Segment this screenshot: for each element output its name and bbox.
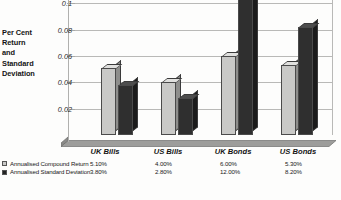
y-axis-title-line: Return [2, 38, 48, 48]
x-axis-label-uk-bonds: UK Bonds [215, 147, 252, 156]
bar-group-us-bonds [281, 0, 325, 135]
legend-swatch-icon [2, 170, 7, 175]
bar-uk-bonds-return [221, 56, 236, 135]
bar-uk-bills-return [101, 68, 116, 135]
bar-group-uk-bonds [221, 0, 265, 135]
legend-label: Annualised Standard Deviation [10, 168, 90, 175]
y-axis-title-line: Standard [2, 59, 48, 69]
y-axis-line [68, 0, 69, 142]
y-tick-label: 0.1 [62, 0, 72, 8]
bar-group-us-bills [161, 0, 205, 135]
chart-legend: Annualised Compound Return 5.10% 4.00% 6… [2, 160, 339, 176]
bar-uk-bonds-stddev [238, 0, 253, 135]
bar-group-uk-bills [101, 0, 145, 135]
plot-inner: 0.1 0.08 0.06 0.04 0.02 [75, 0, 333, 135]
bar-us-bills-stddev [178, 98, 193, 135]
x-axis-label-us-bonds: US Bonds [280, 147, 316, 156]
y-axis-title-line: Deviation [2, 69, 48, 79]
bar-us-bills-return [161, 82, 176, 135]
y-tick-label: 0.08 [58, 25, 72, 34]
legend-label: Annualised Compound Return [10, 160, 89, 167]
legend-value-us-bills: 4.00% [155, 160, 172, 167]
legend-value-uk-bonds: 12.00% [220, 168, 240, 175]
legend-value-uk-bills: 3.80% [90, 168, 107, 175]
plot-area: 0.1 0.08 0.06 0.04 0.02 [68, 0, 333, 145]
legend-row-compound-return: Annualised Compound Return 5.10% 4.00% 6… [2, 160, 339, 168]
bar-us-bonds-stddev [298, 27, 313, 135]
y-axis-title-line: and [2, 48, 48, 58]
legend-value-uk-bonds: 6.00% [220, 160, 237, 167]
legend-row-standard-deviation: Annualised Standard Deviation 3.80% 2.80… [2, 168, 339, 176]
y-tick-label: 0.04 [58, 78, 72, 87]
bar-us-bonds-return [281, 65, 296, 135]
legend-value-us-bonds: 8.20% [285, 168, 302, 175]
y-axis-title-line: Per Cent [2, 28, 48, 38]
legend-value-us-bills: 2.80% [155, 168, 172, 175]
legend-value-uk-bills: 5.10% [90, 160, 107, 167]
plot-right-border [332, 0, 333, 135]
legend-swatch-icon [2, 161, 7, 166]
x-axis-label-uk-bills: UK Bills [90, 147, 119, 156]
y-tick-label: 0.02 [58, 104, 72, 113]
legend-value-us-bonds: 5.30% [285, 160, 302, 167]
bar-chart-figure: Per Cent Return and Standard Deviation 0… [0, 0, 341, 200]
x-axis-label-us-bills: US Bills [154, 147, 183, 156]
y-tick-label: 0.06 [58, 51, 72, 60]
bar-uk-bills-stddev [118, 85, 133, 135]
y-axis-title: Per Cent Return and Standard Deviation [2, 28, 48, 79]
